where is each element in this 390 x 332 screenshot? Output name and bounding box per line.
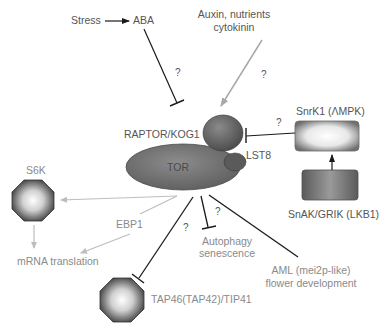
tor-inhibits-tap46-line xyxy=(139,197,193,278)
snak-label: SnAK/GRIK (LKB1) xyxy=(288,208,379,220)
snrk1-inhibits-raptor-line xyxy=(246,133,295,136)
tor-signaling-diagram: Stress ABA ? Auxin, nutrients cytokinin … xyxy=(0,0,390,332)
autophagy-question-mark: ? xyxy=(215,206,221,217)
auxin-label-line1: Auxin, nutrients xyxy=(198,8,270,20)
tor-to-ebp1-line xyxy=(140,196,177,214)
aba-label: ABA xyxy=(133,14,154,26)
tap46-question-mark: ? xyxy=(183,222,189,233)
aml-label-line2: flower development xyxy=(265,277,356,289)
aba-inhibits-tor-line xyxy=(144,29,177,103)
stress-label: Stress xyxy=(71,14,101,26)
ebp1-label: EBP1 xyxy=(116,218,143,230)
snrk1-label: SnrK1 (ΛMPK) xyxy=(296,105,365,117)
snak-node xyxy=(302,170,358,200)
auxin-label-line2: cytokinin xyxy=(214,21,255,33)
lst8-label: LST8 xyxy=(246,149,271,161)
autophagy-label-line2: senescence xyxy=(199,247,255,259)
s6k-node xyxy=(12,180,54,221)
tor-inhibits-autophagy-line xyxy=(201,196,208,227)
aba-question-mark: ? xyxy=(175,67,181,78)
snrk1-question-mark: ? xyxy=(276,117,282,128)
aml-label-line1: AML (mei2p-like) xyxy=(272,264,351,276)
s6k-label: S6K xyxy=(26,164,46,176)
tor-to-s6k-arrow xyxy=(61,196,177,200)
ebp1-to-mrna-arrow xyxy=(81,234,130,253)
aba-inhibition-bar xyxy=(170,100,184,106)
raptor-label: RAPTOR/KOG1 xyxy=(124,128,200,140)
auxin-question-mark: ? xyxy=(261,69,267,80)
autophagy-label-line1: Autophagy xyxy=(202,235,253,247)
auxin-to-tor-arrow xyxy=(221,40,262,106)
raptor-node xyxy=(203,115,243,151)
tor-label: TOR xyxy=(167,161,189,173)
tap46-node xyxy=(100,278,144,322)
autophagy-inhibition-bar xyxy=(202,226,216,229)
snrk1-node xyxy=(295,121,359,151)
mrna-label: mRNA translation xyxy=(17,255,99,267)
tap46-label: TAP46(TAP42)/TIP41 xyxy=(151,293,252,305)
lst8-node xyxy=(224,153,246,171)
